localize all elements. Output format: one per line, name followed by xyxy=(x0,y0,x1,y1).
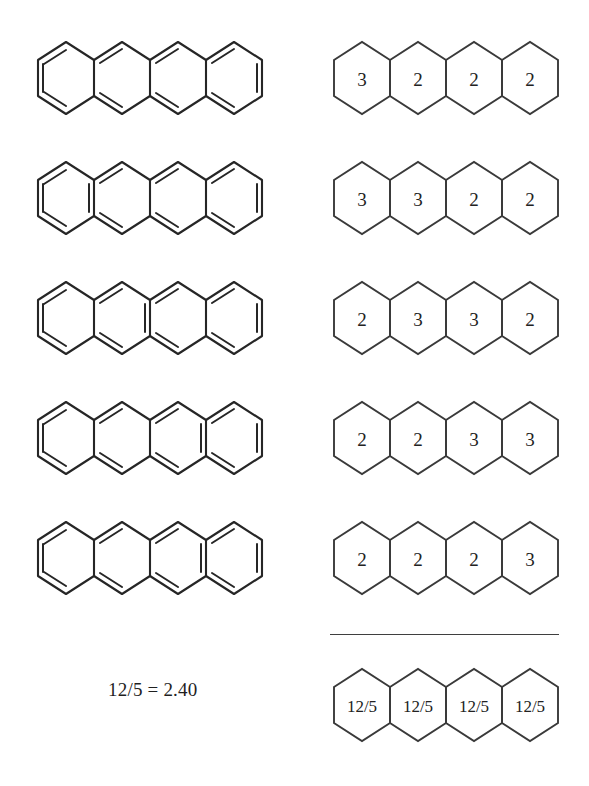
hex-value: 2 xyxy=(525,189,535,210)
hex-value: 3 xyxy=(525,429,535,450)
tetracene-svg-1 xyxy=(28,28,298,128)
structure-row-4: 2 2 3 3 xyxy=(0,388,589,488)
tetracene-svg-4 xyxy=(28,388,298,488)
hexchain-svg-2: 3 3 2 2 xyxy=(326,148,566,248)
molecule-kekule-3 xyxy=(28,268,298,368)
hex-value: 2 xyxy=(413,549,423,570)
hexchain-5: 2 2 2 3 xyxy=(326,508,566,608)
hex-value: 2 xyxy=(469,549,479,570)
molecule-kekule-5 xyxy=(28,508,298,608)
hex-average-value: 12/5 xyxy=(347,697,377,716)
hex-value: 3 xyxy=(357,189,367,210)
hex-value: 2 xyxy=(357,549,367,570)
tetracene-svg-2 xyxy=(28,148,298,248)
hex-average-value: 12/5 xyxy=(403,697,433,716)
tetracene-svg-3 xyxy=(28,268,298,368)
hexchain-svg-1: 3 2 2 2 xyxy=(326,28,566,128)
ratio-label: 12/5 = 2.40 xyxy=(108,679,197,701)
hexchain-svg-average: 12/5 12/5 12/5 12/5 xyxy=(326,655,566,755)
hexchain-3: 2 3 3 2 xyxy=(326,268,566,368)
hex-value: 3 xyxy=(525,549,535,570)
hexchain-average: 12/5 12/5 12/5 12/5 xyxy=(326,655,566,755)
hexchain-svg-4: 2 2 3 3 xyxy=(326,388,566,488)
hexchain-svg-3: 2 3 3 2 xyxy=(326,268,566,368)
tetracene-svg-5 xyxy=(28,508,298,608)
hex-value: 2 xyxy=(413,429,423,450)
hex-value: 3 xyxy=(469,429,479,450)
hex-value: 3 xyxy=(413,309,423,330)
hex-value: 2 xyxy=(525,69,535,90)
structure-row-3: 2 3 3 2 xyxy=(0,268,589,368)
hex-value: 2 xyxy=(469,69,479,90)
hex-average-value: 12/5 xyxy=(459,697,489,716)
structure-row-2: 3 3 2 2 xyxy=(0,148,589,248)
structure-row-5: 2 2 2 3 xyxy=(0,508,589,608)
hexchain-svg-5: 2 2 2 3 xyxy=(326,508,566,608)
hex-value: 3 xyxy=(357,69,367,90)
hex-value: 2 xyxy=(357,429,367,450)
molecule-kekule-4 xyxy=(28,388,298,488)
figure-canvas: 3 2 2 2 xyxy=(0,0,589,786)
hex-value: 2 xyxy=(525,309,535,330)
hex-average-value: 12/5 xyxy=(515,697,545,716)
hexchain-4: 2 2 3 3 xyxy=(326,388,566,488)
hex-value: 2 xyxy=(469,189,479,210)
hex-value: 2 xyxy=(357,309,367,330)
hexchain-2: 3 3 2 2 xyxy=(326,148,566,248)
summation-divider xyxy=(330,634,559,635)
hex-value: 3 xyxy=(413,189,423,210)
molecule-kekule-2 xyxy=(28,148,298,248)
structure-row-1: 3 2 2 2 xyxy=(0,28,589,128)
hex-value: 2 xyxy=(413,69,423,90)
hex-value: 3 xyxy=(469,309,479,330)
molecule-kekule-1 xyxy=(28,28,298,128)
hexchain-1: 3 2 2 2 xyxy=(326,28,566,128)
